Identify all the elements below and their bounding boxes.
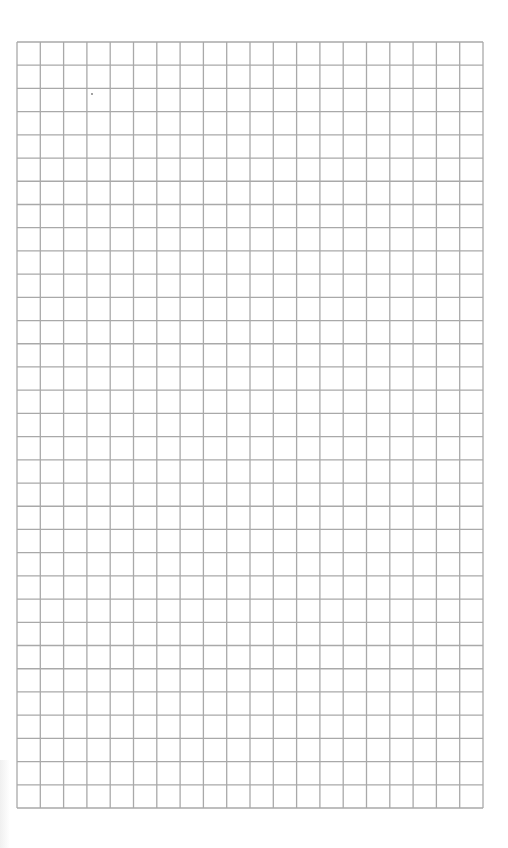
graph-paper-grid (0, 0, 508, 848)
stray-dot-mark (91, 93, 93, 95)
